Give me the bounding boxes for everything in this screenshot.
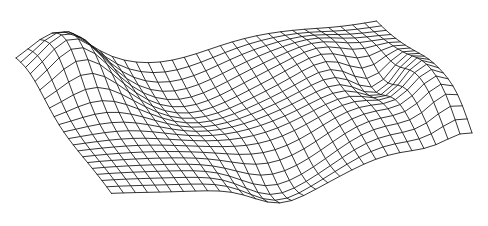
wireframe-surface-figure <box>0 0 488 226</box>
surface-mesh-plot <box>0 0 488 226</box>
